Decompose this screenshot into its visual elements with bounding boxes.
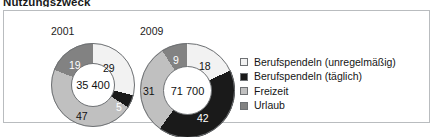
- chart-panel: 2001 35 400 29 5 47 19 2009 71 700 18: [3, 10, 430, 123]
- donut-ring-2001: 35 400: [51, 43, 135, 127]
- legend-swatch-icon-freizeit: [240, 87, 248, 95]
- center-value-2001: 35 400: [76, 79, 110, 91]
- legend-item-berufspendeln-taeglich: Berufspendeln (täglich): [240, 70, 396, 85]
- page-title: Nutzungszweck: [3, 0, 91, 7]
- slice-label-2001-freizeit: 47: [76, 111, 88, 122]
- legend-label-berufspendeln-taeglich: Berufspendeln (täglich): [254, 71, 362, 82]
- slice-label-2001-urlaub: 19: [69, 60, 81, 71]
- legend-item-berufspendeln-unregelmaessig: Berufspendeln (unregelmäßig): [240, 55, 396, 70]
- legend-swatch-icon-berufspendeln-taeglich: [240, 73, 248, 81]
- legend-item-freizeit: Freizeit: [240, 84, 396, 99]
- legend: Berufspendeln (unregelmäßig) Berufspende…: [240, 55, 396, 113]
- legend-item-urlaub: Urlaub: [240, 99, 396, 114]
- slice-label-2009-urlaub: 9: [173, 55, 179, 66]
- legend-swatch-icon-urlaub: [240, 102, 248, 110]
- slice-label-2009-berufspendeln-taeglich: 42: [197, 113, 209, 124]
- slice-label-2001-berufspendeln-taeglich: 5: [116, 102, 122, 113]
- legend-label-freizeit: Freizeit: [254, 86, 288, 97]
- legend-label-urlaub: Urlaub: [254, 100, 285, 111]
- slice-label-2001-berufspendeln-unregelmaessig: 29: [103, 63, 115, 74]
- donut-center-2009: 71 700: [163, 66, 212, 115]
- legend-swatch-icon-berufspendeln-unregelmaessig: [240, 58, 248, 66]
- center-value-2009: 71 700: [171, 85, 205, 97]
- slice-label-2009-freizeit: 31: [143, 86, 155, 97]
- legend-label-berufspendeln-unregelmaessig: Berufspendeln (unregelmäßig): [254, 57, 396, 68]
- slice-label-2009-berufspendeln-unregelmaessig: 18: [199, 61, 211, 72]
- chart-figure: Nutzungszweck 2001 35 400 29 5 47 19 200…: [0, 0, 436, 137]
